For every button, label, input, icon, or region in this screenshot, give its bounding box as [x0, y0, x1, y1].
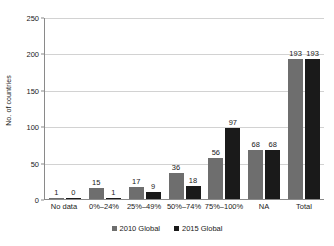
- bar-value-label: 68: [269, 140, 277, 149]
- bar-value-label: 9: [151, 182, 155, 191]
- plot-area: 10151179361856976868193193: [44, 18, 324, 200]
- bar-group: 151: [85, 18, 125, 199]
- bar[interactable]: [186, 186, 201, 199]
- gridline: [45, 200, 324, 201]
- bar[interactable]: [305, 59, 320, 200]
- bar-column[interactable]: 1: [49, 18, 64, 199]
- x-axis-tick-label: Total: [284, 202, 324, 211]
- x-axis-tick-label: 25%–49%: [124, 202, 164, 211]
- y-axis-tick-mark: [41, 163, 44, 164]
- bar[interactable]: [49, 198, 64, 199]
- bar-column[interactable]: 56: [208, 18, 223, 199]
- bar-groups: 10151179361856976868193193: [45, 18, 324, 199]
- bar-value-label: 1: [54, 188, 58, 197]
- bar-column[interactable]: 17: [129, 18, 144, 199]
- y-axis-tick-label: 250: [0, 14, 39, 23]
- bar[interactable]: [208, 158, 223, 199]
- bar-column[interactable]: 9: [146, 18, 161, 199]
- bar-group: 193193: [284, 18, 324, 199]
- y-axis-title: No. of countries: [0, 0, 16, 200]
- legend-swatch-icon: [112, 226, 117, 231]
- bar-value-label: 97: [229, 118, 237, 127]
- bar[interactable]: [288, 59, 303, 200]
- bar-column[interactable]: 68: [248, 18, 263, 199]
- bar[interactable]: [129, 187, 144, 199]
- x-axis-tick-label: 50%–74%: [164, 202, 204, 211]
- legend-swatch-icon: [174, 226, 179, 231]
- chart-legend: 2010 Global2015 Global: [0, 224, 334, 233]
- bar-column[interactable]: 36: [169, 18, 184, 199]
- x-axis-tick-label: 0%–24%: [84, 202, 124, 211]
- bar-group: 5697: [204, 18, 244, 199]
- bar-column[interactable]: 193: [305, 18, 320, 199]
- bar-column[interactable]: 97: [225, 18, 240, 199]
- y-axis-tick-label: 0: [0, 196, 39, 205]
- bar[interactable]: [225, 128, 240, 199]
- y-axis-tick-mark: [41, 200, 44, 201]
- bar[interactable]: [169, 173, 184, 199]
- bar[interactable]: [146, 192, 161, 199]
- bar[interactable]: [106, 198, 121, 199]
- bar-value-label: 193: [306, 49, 319, 58]
- bar-value-label: 193: [289, 49, 302, 58]
- x-axis-labels: No data0%–24%25%–49%50%–74%75%–100%NATot…: [44, 202, 324, 211]
- chart-figure: No. of countries 10151179361856976868193…: [0, 0, 334, 246]
- y-axis-tick-mark: [41, 127, 44, 128]
- x-axis-tick-label: 75%–100%: [204, 202, 244, 211]
- bar-group: 6868: [244, 18, 284, 199]
- y-axis-tick-label: 150: [0, 86, 39, 95]
- y-axis-tick-label: 200: [0, 50, 39, 59]
- y-axis-tick-mark: [41, 54, 44, 55]
- bar-column[interactable]: 18: [186, 18, 201, 199]
- bar-value-label: 68: [252, 140, 260, 149]
- x-axis-tick-label: NA: [244, 202, 284, 211]
- bar-value-label: 18: [189, 176, 197, 185]
- bar-value-label: 1: [111, 188, 115, 197]
- y-axis-tick-label: 100: [0, 123, 39, 132]
- x-axis-tick-label: No data: [44, 202, 84, 211]
- bar-value-label: 0: [71, 188, 75, 197]
- y-axis-tick-label: 50: [0, 159, 39, 168]
- bar-value-label: 56: [212, 148, 220, 157]
- bar-column[interactable]: 68: [265, 18, 280, 199]
- legend-label: 2010 Global: [120, 224, 160, 233]
- bar-group: 10: [45, 18, 85, 199]
- bar-group: 179: [125, 18, 165, 199]
- bar-group: 3618: [165, 18, 205, 199]
- bar[interactable]: [265, 150, 280, 200]
- bar-value-label: 17: [132, 177, 140, 186]
- bar-value-label: 36: [172, 163, 180, 172]
- bar-column[interactable]: 0: [66, 18, 81, 199]
- bar-column[interactable]: 15: [89, 18, 104, 199]
- bar-value-label: 15: [92, 178, 100, 187]
- bar[interactable]: [248, 150, 263, 200]
- legend-item[interactable]: 2015 Global: [174, 224, 222, 233]
- y-axis-tick-mark: [41, 90, 44, 91]
- bar[interactable]: [66, 198, 81, 199]
- bar[interactable]: [89, 188, 104, 199]
- bar-column[interactable]: 193: [288, 18, 303, 199]
- y-axis-title-text: No. of countries: [5, 75, 12, 126]
- legend-item[interactable]: 2010 Global: [112, 224, 160, 233]
- legend-label: 2015 Global: [182, 224, 222, 233]
- y-axis-tick-mark: [41, 18, 44, 19]
- bar-column[interactable]: 1: [106, 18, 121, 199]
